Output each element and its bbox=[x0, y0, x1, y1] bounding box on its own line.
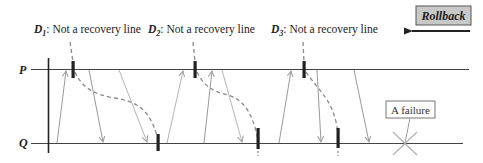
process-label-q: Q bbox=[19, 136, 28, 150]
message-arrow bbox=[317, 70, 321, 142]
message-arrow bbox=[57, 71, 66, 143]
message-arrow bbox=[167, 71, 183, 143]
checkpoint-q-3 bbox=[337, 128, 340, 148]
checkpoint-q-1 bbox=[157, 134, 160, 151]
cut-label-d2: D2: Not a recovery line bbox=[147, 23, 255, 38]
message-arrow bbox=[119, 70, 147, 142]
rollback-indicator: Rollback bbox=[412, 6, 471, 31]
cut-line-d1 bbox=[70, 42, 157, 136]
failure-annotation: A failure bbox=[386, 101, 435, 155]
message-arrow bbox=[354, 70, 369, 142]
checkpoint-p-3 bbox=[303, 61, 306, 78]
recovery-line-diagram: D1: Not a recovery line D2: Not a recove… bbox=[0, 0, 483, 163]
checkpoint-p-2 bbox=[194, 61, 197, 78]
messages bbox=[57, 70, 369, 143]
message-arrow bbox=[204, 71, 212, 143]
message-arrow bbox=[279, 71, 291, 143]
checkpoint-p-1 bbox=[72, 61, 75, 78]
process-label-p: P bbox=[19, 63, 27, 77]
failure-label: A failure bbox=[391, 104, 430, 116]
message-arrow bbox=[222, 70, 242, 142]
rollback-label: Rollback bbox=[421, 9, 466, 23]
cut-label-d3: D3: Not a recovery line bbox=[270, 23, 378, 38]
checkpoint-q-2 bbox=[257, 128, 260, 149]
cut-line-d3 bbox=[303, 42, 338, 134]
cut-line-d2 bbox=[193, 42, 258, 140]
cut-label-d1: D1: Not a recovery line bbox=[33, 23, 141, 38]
message-arrow bbox=[89, 70, 103, 142]
